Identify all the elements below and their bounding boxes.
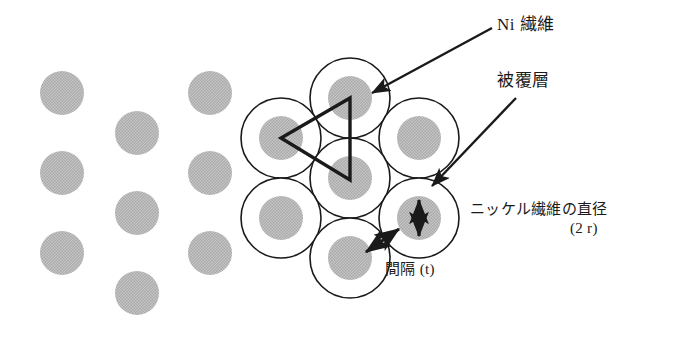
uncoated-fiber-field <box>40 71 232 315</box>
figure-diagram: Ni 繊維 被覆層 ニッケル繊維の直径(2 r) 間隔 (t) <box>0 0 674 350</box>
label-fiber-diameter: ニッケル繊維の直径(2 r) <box>470 200 608 238</box>
fiber-core <box>328 236 372 280</box>
fiber-core <box>397 116 441 160</box>
label-fiber-diameter-symbol: (2 r) <box>470 219 608 238</box>
label-coating-layer: 被覆層 <box>497 70 550 91</box>
uncoated-fiber-dot <box>115 111 159 155</box>
uncoated-fiber-dot <box>40 231 84 275</box>
uncoated-fiber-dot <box>188 71 232 115</box>
label-spacing: 間隔 (t) <box>385 260 435 279</box>
uncoated-fiber-dot <box>40 151 84 195</box>
uncoated-fiber-dot <box>115 191 159 235</box>
uncoated-fiber-dot <box>188 231 232 275</box>
uncoated-fiber-dot <box>188 151 232 195</box>
label-ni-fiber: Ni 繊維 <box>497 14 555 35</box>
uncoated-fiber-dot <box>115 271 159 315</box>
fiber-core <box>259 196 303 240</box>
ni-fiber-leader-line <box>372 28 492 93</box>
label-fiber-diameter-main: ニッケル繊維の直径 <box>470 201 608 217</box>
uncoated-fiber-dot <box>40 71 84 115</box>
diagram-canvas <box>0 0 674 350</box>
